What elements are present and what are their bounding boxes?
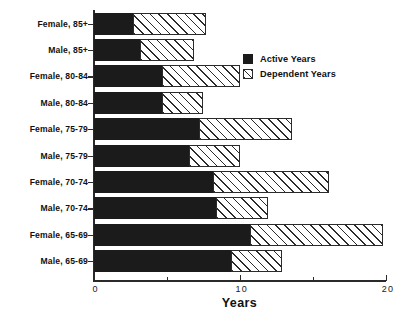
bar-segment-dependent-years (213, 171, 329, 193)
bar-segment-dependent-years (133, 13, 206, 35)
bar-segment-active-years (94, 13, 133, 35)
legend-item-active-years: Active Years (243, 52, 336, 65)
bar-row (94, 13, 207, 35)
x-axis-tick (386, 275, 387, 281)
y-axis-tick (88, 208, 93, 209)
bar-segment-dependent-years (162, 65, 240, 87)
bar-row (94, 92, 204, 114)
y-axis-tick (88, 50, 93, 51)
horizontal-stacked-bar-chart: Female, 85+Male, 85+Female, 80-84Male, 8… (0, 0, 413, 320)
bar-row (94, 39, 195, 61)
bar-segment-dependent-years (140, 39, 194, 61)
y-axis-tick (88, 156, 93, 157)
bar-segment-active-years (94, 92, 163, 114)
bar-segment-dependent-years (250, 224, 383, 246)
bar-segment-active-years (94, 197, 217, 219)
bar-segment-dependent-years (162, 92, 203, 114)
y-axis-tick (88, 24, 93, 25)
bar-segment-active-years (94, 224, 250, 246)
bar-row (94, 224, 384, 246)
x-axis-title: Years (93, 296, 386, 310)
x-axis-tick (240, 275, 241, 281)
bar-row (94, 171, 329, 193)
bar-segment-dependent-years (189, 145, 240, 167)
y-axis-tick (88, 103, 93, 104)
y-axis-tick (88, 235, 93, 236)
y-axis-tick (88, 76, 93, 77)
x-axis-minor-tick (167, 277, 168, 281)
x-axis-tick-label: 20 (382, 284, 394, 294)
bar-segment-active-years (94, 65, 163, 87)
legend-label-dependent-years: Dependent Years (260, 69, 336, 79)
bar-segment-active-years (94, 250, 231, 272)
x-axis-tick-label: 0 (92, 284, 98, 294)
bar-segment-dependent-years (199, 118, 293, 140)
bar-segment-active-years (94, 39, 141, 61)
bar-segment-active-years (94, 145, 189, 167)
x-axis-minor-tick (313, 277, 314, 281)
legend-label-active-years: Active Years (260, 54, 316, 64)
bar-segment-active-years (94, 118, 199, 140)
hatched-swatch-icon (243, 69, 253, 79)
bar-row (94, 118, 293, 140)
bar-series-group (0, 0, 413, 320)
y-axis-tick (88, 261, 93, 262)
bar-row (94, 65, 240, 87)
y-axis-tick (88, 129, 93, 130)
y-axis-tick (88, 182, 93, 183)
legend-item-dependent-years: Dependent Years (243, 67, 336, 80)
x-axis-tick-label: 10 (236, 284, 248, 294)
bar-row (94, 250, 283, 272)
chart-legend: Active Years Dependent Years (243, 52, 336, 82)
bar-segment-active-years (94, 171, 214, 193)
bar-row (94, 145, 240, 167)
bar-row (94, 197, 268, 219)
x-axis-tick (94, 275, 95, 281)
bar-segment-dependent-years (216, 197, 267, 219)
solid-black-swatch-icon (243, 54, 253, 64)
bar-segment-dependent-years (231, 250, 282, 272)
